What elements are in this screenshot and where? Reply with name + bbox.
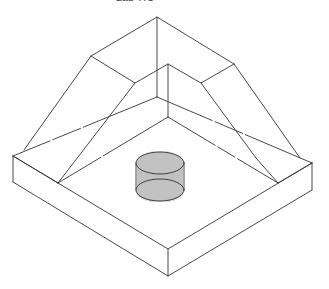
- base-slab: [13, 97, 312, 276]
- isometric-drawing: [0, 0, 329, 289]
- cylinder: [136, 152, 184, 201]
- inner-opening: [13, 117, 312, 183]
